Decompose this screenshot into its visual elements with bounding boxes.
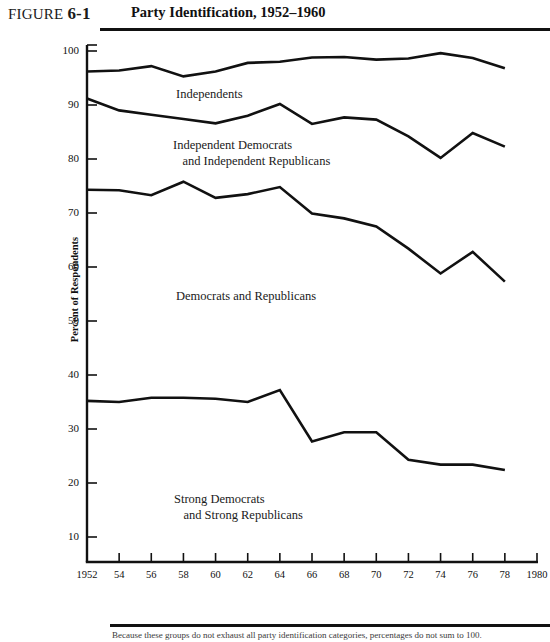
- x-tick-label: 66: [295, 569, 329, 580]
- x-tick-label: 56: [134, 569, 168, 580]
- figure-caption-label: FIGURE6-1: [8, 4, 91, 24]
- source-note: Because these groups do not exhaust all …: [112, 630, 550, 642]
- x-tick-label: 72: [391, 569, 425, 580]
- x-tick-label: 78: [488, 569, 522, 580]
- figure-title: Party Identification, 1952–1960: [131, 4, 326, 21]
- series-label-1: Independent Democrats and Independent Re…: [173, 137, 330, 169]
- figure-header: FIGURE6-1 Party Identification, 1952–196…: [0, 0, 550, 34]
- chart-container: Percent of Respondents 10090807060504030…: [0, 34, 550, 614]
- y-axis-title: Percent of Respondents: [69, 210, 80, 370]
- series-line-3: [87, 390, 505, 470]
- footer-divider: [110, 624, 550, 627]
- x-tick-label: 1952: [70, 569, 104, 580]
- x-tick-label: 1980: [520, 569, 550, 580]
- x-tick-label: 62: [231, 569, 265, 580]
- chart-series-lines: [87, 53, 505, 470]
- x-tick-label: 70: [359, 569, 393, 580]
- x-tick-label: 68: [327, 569, 361, 580]
- y-tick-label: 40: [53, 368, 79, 380]
- series-label-2: Democrats and Republicans: [176, 288, 316, 304]
- x-tick-label: 64: [263, 569, 297, 580]
- y-tick-label: 70: [53, 206, 79, 218]
- figure-number: 6-1: [67, 4, 90, 23]
- series-line-0: [87, 53, 505, 76]
- x-tick-label: 74: [424, 569, 458, 580]
- y-tick-label: 20: [53, 476, 79, 488]
- line-chart-plot: [0, 34, 550, 614]
- series-label-0: Independents: [176, 86, 243, 102]
- figure-word: FIGURE: [8, 6, 63, 22]
- y-tick-label: 30: [53, 422, 79, 434]
- y-tick-label: 80: [53, 152, 79, 164]
- x-tick-label: 60: [199, 569, 233, 580]
- header-divider: [100, 28, 550, 31]
- y-tick-label: 10: [53, 530, 79, 542]
- y-tick-label: 100: [53, 44, 79, 56]
- series-line-2: [87, 182, 505, 282]
- y-tick-label: 50: [53, 314, 79, 326]
- x-tick-label: 54: [102, 569, 136, 580]
- y-tick-label: 90: [53, 98, 79, 110]
- y-tick-label: 60: [53, 260, 79, 272]
- x-tick-label: 76: [456, 569, 490, 580]
- x-tick-label: 58: [166, 569, 200, 580]
- series-label-3: Strong Democrats and Strong Republicans: [174, 491, 303, 523]
